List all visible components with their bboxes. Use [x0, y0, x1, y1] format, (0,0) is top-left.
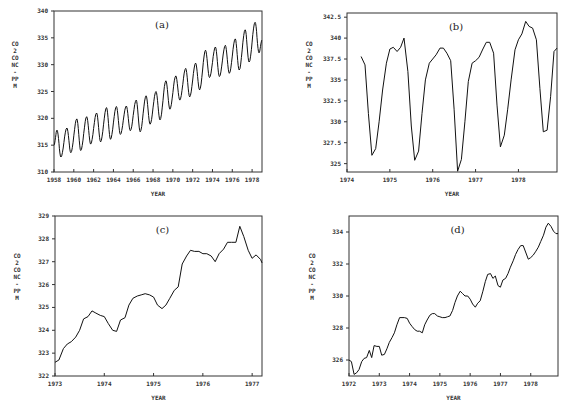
chart-panel-d: CO2 CONC - PPM 1972197319741975197619771…	[0, 0, 563, 412]
data-line	[349, 223, 558, 374]
x-tick-label: 1972	[342, 380, 357, 387]
y-tick-label: 326	[332, 356, 343, 363]
x-tick-label: 1976	[463, 380, 478, 387]
x-axis-label: YEAR	[446, 394, 461, 401]
y-tick-label: 328	[332, 324, 343, 331]
x-tick-label: 1977	[493, 380, 508, 387]
panel-label: (d)	[450, 224, 464, 235]
x-tick-label: 1975	[433, 380, 448, 387]
y-tick-label: 332	[332, 260, 343, 267]
x-tick-label: 1978	[524, 380, 539, 387]
y-tick-label: 330	[332, 292, 343, 299]
plot-d: 1972197319741975197619771978326328330332…	[0, 0, 563, 412]
y-tick-label: 334	[332, 228, 343, 235]
x-tick-label: 1973	[372, 380, 387, 387]
x-tick-label: 1974	[402, 380, 417, 387]
